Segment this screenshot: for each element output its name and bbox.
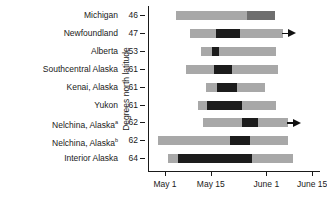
x-axis-tick-label: June 15 <box>297 179 327 189</box>
calving-period-bar <box>158 136 287 145</box>
open-ended-arrow-icon <box>282 29 296 38</box>
calving-period-bar <box>190 29 283 38</box>
x-axis-tick-label: June 1 <box>254 179 280 189</box>
x-axis-tick-mark <box>165 171 166 176</box>
x-axis-line <box>148 171 320 172</box>
peak-calving-segment <box>217 83 237 92</box>
open-ended-arrow-icon <box>287 118 301 127</box>
calving-period-bar <box>186 65 278 74</box>
peak-calving-segment <box>242 118 258 127</box>
x-axis-tick-mark <box>211 171 212 176</box>
calving-period-bar <box>201 47 276 56</box>
peak-calving-segment <box>247 11 275 20</box>
calving-period-bar <box>198 101 276 110</box>
peak-calving-segment <box>207 101 241 110</box>
x-axis-tick-mark <box>266 171 267 176</box>
calving-period-bar <box>168 154 292 163</box>
peak-calving-segment <box>214 65 232 74</box>
peak-calving-segment <box>230 136 250 145</box>
peak-calving-segment <box>216 29 241 38</box>
peak-calving-segment <box>212 47 219 56</box>
y-axis-line <box>148 6 149 172</box>
arrow-head <box>288 29 296 37</box>
calving-period-bar <box>206 83 265 92</box>
peak-calving-segment <box>178 154 252 163</box>
x-axis-tick-mark <box>312 171 313 176</box>
calving-period-bar <box>203 118 288 127</box>
x-axis-tick-label: May 1 <box>153 179 176 189</box>
arrow-head <box>293 119 301 127</box>
calving-period-bar <box>176 11 274 20</box>
x-axis-tick-label: May 15 <box>197 179 225 189</box>
